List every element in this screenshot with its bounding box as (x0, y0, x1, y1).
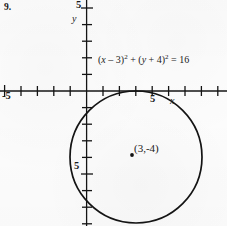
y-axis-name: y (72, 13, 76, 24)
x-axis-tick-label-neg5: -5 (2, 90, 11, 101)
y-axis-tick-label-5: 5 (76, 0, 81, 10)
x-axis-name: x (170, 95, 174, 106)
center-point-label: (3,-4) (134, 142, 159, 154)
coordinate-plane (0, 0, 227, 226)
y-axis-tick-label-neg5: 5 (74, 160, 79, 171)
x-axis-tick-label-5: 5 (150, 93, 155, 104)
graph-figure: 9. (x – 3)2 + (y + 4)2 = 16 (0, 0, 227, 226)
